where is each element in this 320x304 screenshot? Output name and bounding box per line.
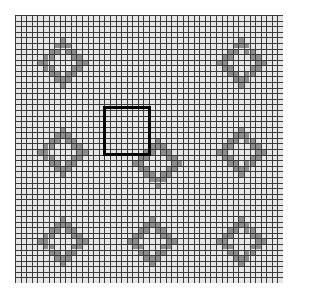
filled-cell <box>82 238 88 244</box>
filled-cell <box>160 177 166 183</box>
filled-cell <box>60 261 66 267</box>
filled-cell <box>261 60 267 66</box>
filled-cell <box>238 82 244 88</box>
filled-cell <box>233 227 239 233</box>
filled-cell <box>82 60 88 66</box>
filled-cell <box>149 261 155 267</box>
filled-cell <box>171 166 177 172</box>
filled-cell <box>250 160 256 166</box>
filled-cell <box>177 160 183 166</box>
filled-cell <box>76 244 82 250</box>
filled-cell <box>255 155 261 161</box>
filled-cell <box>138 233 144 239</box>
filled-cell <box>233 138 239 144</box>
selection-box[interactable] <box>103 106 151 156</box>
filled-cell <box>65 76 71 82</box>
filled-cell <box>54 138 60 144</box>
filled-cell <box>166 171 172 177</box>
filled-cell <box>54 227 60 233</box>
filled-cell <box>238 171 244 177</box>
filled-cell <box>49 54 55 60</box>
filled-cell <box>255 244 261 250</box>
filled-cell <box>261 149 267 155</box>
filled-cell <box>155 255 161 261</box>
filled-cell <box>227 233 233 239</box>
filled-cell <box>238 261 244 267</box>
filled-cell <box>71 71 77 77</box>
filled-cell <box>82 149 88 155</box>
filled-cell <box>244 255 250 261</box>
filled-cell <box>160 250 166 256</box>
filled-cell <box>71 250 77 256</box>
filled-cell <box>227 54 233 60</box>
filled-cell <box>255 65 261 71</box>
filled-cell <box>250 71 256 77</box>
filled-cell <box>54 49 60 55</box>
filled-cell <box>227 143 233 149</box>
filled-cell <box>71 160 77 166</box>
filled-cell <box>244 76 250 82</box>
filled-cell <box>244 166 250 172</box>
filled-cell <box>250 250 256 256</box>
filled-cell <box>261 238 267 244</box>
filled-cell <box>76 65 82 71</box>
filled-cell <box>143 227 149 233</box>
filled-cell <box>65 255 71 261</box>
filled-cell <box>60 82 66 88</box>
filled-cell <box>65 166 71 172</box>
filled-cell <box>60 171 66 177</box>
filled-cell <box>155 183 161 189</box>
filled-cell <box>49 143 55 149</box>
filled-cell <box>166 244 172 250</box>
filled-cell <box>171 238 177 244</box>
filled-cell <box>233 49 239 55</box>
filled-cell <box>49 233 55 239</box>
filled-cell <box>76 155 82 161</box>
